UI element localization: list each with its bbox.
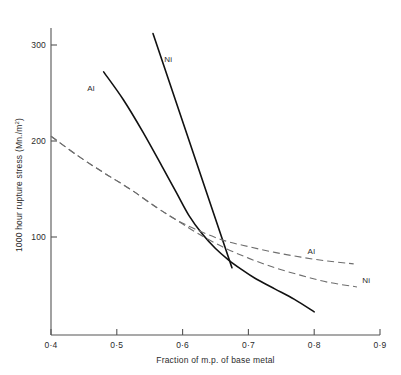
y-axis-title: 1000 hour rupture stress (Mn./m2)	[14, 118, 24, 252]
y-axis-title-main: 1000 hour rupture stress (Mn./m	[14, 124, 24, 252]
chart-figure: AlNiAlNi 1002003000·40·50·60·70·80·9 Fra…	[0, 0, 401, 375]
x-tick-label: 0·8	[308, 340, 321, 350]
series-curve-ni-solid	[153, 33, 232, 267]
x-tick-label: 0·9	[374, 340, 387, 350]
series-curve-al-dashed	[51, 136, 354, 264]
series-label-al-solid: Al	[87, 84, 95, 93]
series-label-ni-dashed: Ni	[362, 276, 370, 285]
series-label-ni-solid: Ni	[164, 55, 172, 64]
y-tick-label: 200	[31, 136, 46, 146]
x-tick-label: 0·4	[45, 340, 58, 350]
series-label-al-dashed: Al	[308, 247, 316, 256]
axes	[51, 28, 380, 335]
curves	[51, 33, 357, 311]
x-axis-title: Fraction of m.p. of base metal	[156, 355, 274, 365]
x-tick-label: 0·7	[242, 340, 255, 350]
series-curve-ni-dashed	[51, 136, 357, 287]
tick-labels: 1002003000·40·50·60·70·80·9	[31, 40, 386, 350]
axis-titles: Fraction of m.p. of base metal1000 hour …	[14, 118, 275, 365]
curve-labels: AlNiAlNi	[87, 55, 370, 285]
x-tick-label: 0·5	[110, 340, 123, 350]
rupture-stress-chart: AlNiAlNi 1002003000·40·50·60·70·80·9 Fra…	[0, 0, 401, 375]
y-axis-title-tail: )	[14, 118, 24, 121]
y-tick-label: 100	[31, 232, 46, 242]
y-tick-label: 300	[31, 40, 46, 50]
x-tick-label: 0·6	[176, 340, 189, 350]
